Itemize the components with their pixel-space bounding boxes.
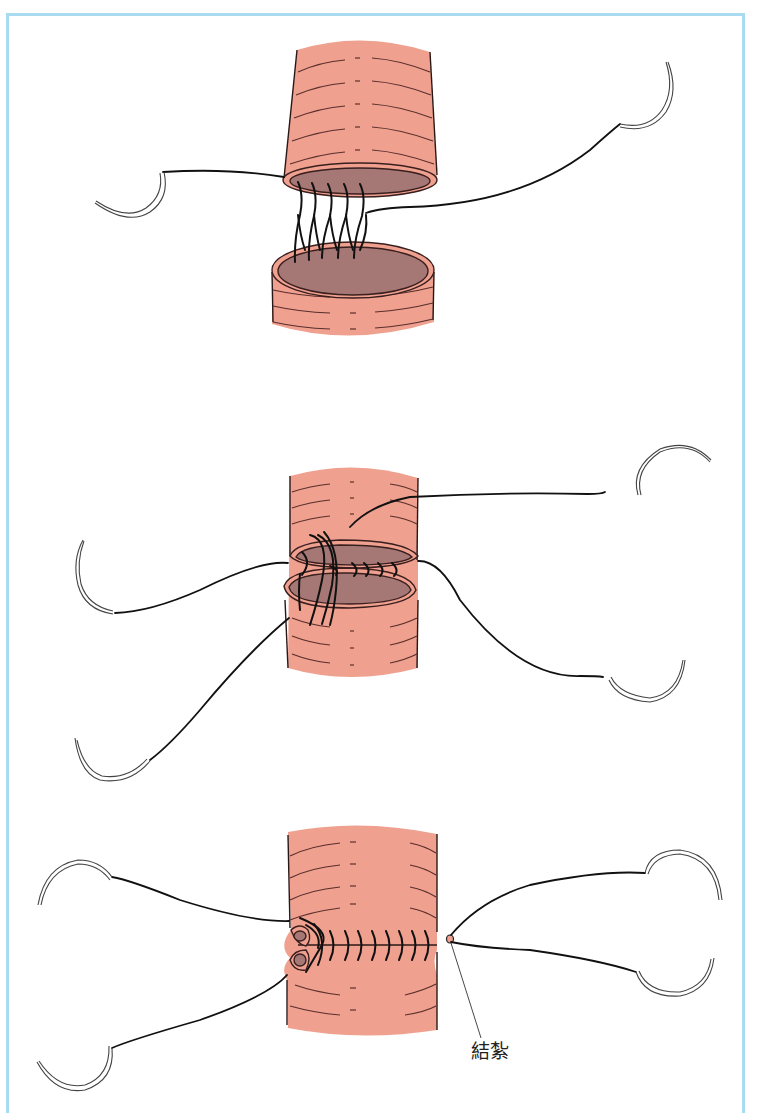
panel-1 bbox=[95, 40, 673, 335]
needle-icon bbox=[636, 958, 714, 996]
needle-icon bbox=[37, 1046, 112, 1091]
needle-icon bbox=[38, 860, 112, 905]
needle-icon bbox=[75, 738, 150, 781]
thread-lower-right bbox=[418, 561, 603, 677]
label-leader-line bbox=[451, 943, 481, 1038]
thread-lower-left bbox=[112, 975, 287, 1048]
needle-icon bbox=[645, 850, 722, 900]
panel-2 bbox=[75, 445, 711, 781]
needle-icon bbox=[636, 445, 711, 495]
needle-icon bbox=[76, 540, 113, 614]
lower-bowel-segment bbox=[272, 242, 434, 336]
thread-lower-right bbox=[451, 942, 636, 972]
needle-icon bbox=[609, 660, 685, 702]
panel-3 bbox=[37, 825, 722, 1090]
needle-icon bbox=[620, 62, 673, 129]
needle-icon bbox=[95, 172, 165, 217]
thread-left bbox=[163, 171, 284, 177]
upper-bowel-segment bbox=[283, 40, 437, 197]
thread-upper-right bbox=[451, 873, 645, 936]
thread-left bbox=[115, 563, 288, 613]
thread-upper-left bbox=[112, 877, 289, 921]
ligation-label: 結紮 bbox=[471, 1040, 509, 1062]
thread-lower-left bbox=[150, 618, 289, 760]
